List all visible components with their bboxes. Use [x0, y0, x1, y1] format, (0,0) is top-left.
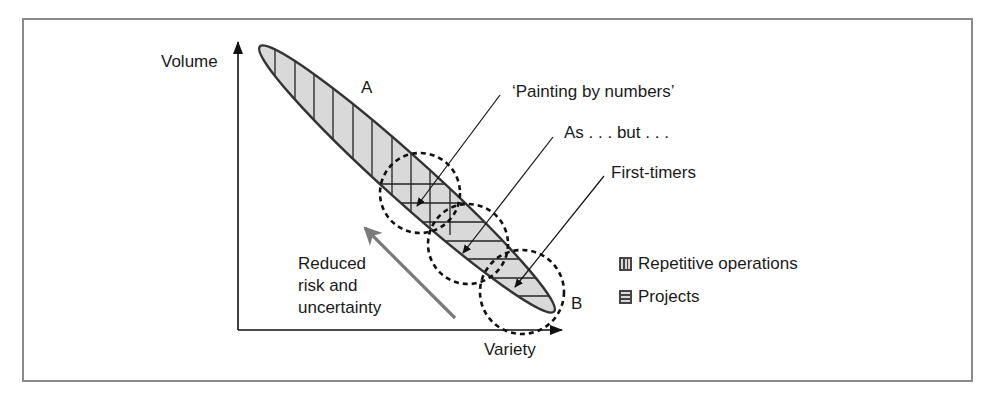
region-b-label: B — [571, 294, 582, 314]
x-axis-label: Variety — [484, 340, 536, 360]
reduced-risk-line-3: uncertainty — [298, 298, 381, 318]
as-but-arrow — [463, 137, 553, 253]
first-timers-arrow — [515, 176, 604, 287]
vertical-hatch-swatch-icon — [619, 257, 632, 271]
legend-item-projects: Projects — [619, 287, 699, 307]
reduced-risk-line-1: Reduced — [298, 254, 381, 274]
legend-label: Repetitive operations — [638, 254, 798, 274]
region-a-label: A — [361, 78, 372, 98]
as-but-label: As . . . but . . . — [564, 123, 669, 143]
y-axis-label: Volume — [161, 52, 218, 72]
reduced-risk-line-2: risk and — [298, 276, 381, 296]
first-timers-label: First-timers — [611, 163, 696, 183]
diagram-canvas — [0, 0, 997, 398]
painting-by-numbers-label: ‘Painting by numbers’ — [512, 82, 675, 102]
legend-label: Projects — [638, 287, 699, 307]
reduced-risk-label: Reduced risk and uncertainty — [298, 254, 381, 318]
horizontal-hatch-swatch-icon — [619, 290, 632, 304]
painting-by-numbers-arrow — [417, 95, 500, 206]
legend-item-repetitive-operations: Repetitive operations — [619, 254, 798, 274]
